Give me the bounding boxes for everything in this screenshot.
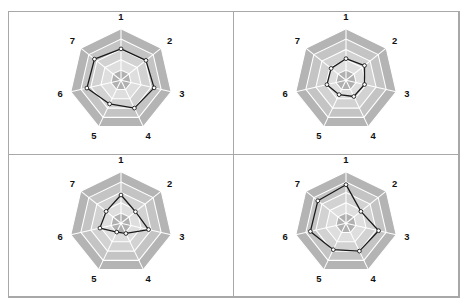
axis-label-4: 4 [370, 272, 376, 283]
axis-label-7: 7 [295, 177, 300, 188]
axis-label-2: 2 [392, 35, 397, 46]
axis-label-1: 1 [118, 12, 123, 22]
axis-label-7: 7 [70, 177, 75, 188]
radar-plot-top-right: 1234567 [234, 12, 458, 154]
axis-label-7: 7 [70, 35, 75, 46]
axis-label-1: 1 [118, 155, 123, 165]
radar-data-point-1 [344, 57, 348, 61]
radar-data-point-5 [108, 102, 112, 106]
radar-data-point-6 [325, 83, 329, 87]
radar-data-point-5 [331, 247, 335, 251]
axis-label-5: 5 [91, 272, 96, 283]
radar-data-point-3 [363, 83, 367, 87]
axis-label-3: 3 [179, 88, 184, 99]
radar-data-point-5 [115, 230, 119, 234]
radar-data-point-2 [363, 64, 367, 68]
axis-label-1: 1 [343, 155, 348, 165]
axis-label-2: 2 [167, 177, 172, 188]
radar-data-point-1 [119, 47, 123, 51]
radar-data-point-2 [144, 59, 148, 63]
axis-label-4: 4 [145, 130, 151, 141]
axis-label-3: 3 [179, 230, 184, 241]
radar-data-point-7 [329, 67, 333, 71]
axis-label-7: 7 [295, 35, 300, 46]
radar-data-point-7 [93, 57, 97, 61]
radar-data-point-6 [98, 226, 102, 230]
radar-data-point-4 [358, 249, 362, 253]
radar-panel-bottom-left: 1234567 [8, 154, 234, 298]
axis-label-1: 1 [343, 12, 348, 22]
axis-label-4: 4 [370, 130, 376, 141]
radar-data-point-7 [104, 209, 108, 213]
radar-panel-top-right: 1234567 [233, 11, 459, 155]
radar-data-point-6 [85, 86, 89, 90]
axis-label-2: 2 [392, 177, 397, 188]
radar-plot-bottom-right: 1234567 [234, 155, 458, 297]
radar-plot-top-left: 1234567 [9, 12, 233, 154]
radar-data-point-4 [352, 95, 356, 99]
radar-data-point-3 [147, 227, 151, 231]
axis-label-5: 5 [91, 130, 96, 141]
axis-label-5: 5 [316, 272, 321, 283]
radar-data-point-2 [134, 209, 138, 213]
axis-label-6: 6 [58, 88, 63, 99]
radar-panel-top-left: 1234567 [8, 11, 234, 155]
radar-data-point-7 [316, 198, 320, 202]
radar-data-point-1 [119, 193, 123, 197]
axis-label-3: 3 [404, 230, 409, 241]
radar-data-point-1 [344, 182, 348, 186]
radar-data-point-6 [309, 229, 313, 233]
radar-data-point-3 [377, 228, 381, 232]
radar-data-point-4 [124, 231, 128, 235]
axis-label-4: 4 [145, 272, 151, 283]
axis-label-3: 3 [404, 88, 409, 99]
radar-panel-bottom-right: 1234567 [233, 154, 459, 298]
radar-data-point-5 [337, 93, 341, 97]
axis-label-5: 5 [316, 130, 321, 141]
panel-grid: 1234567 1234567 1234567 1234567 [8, 11, 460, 298]
radar-data-point-3 [152, 86, 156, 90]
axis-label-6: 6 [58, 230, 63, 241]
radar-data-point-4 [133, 106, 137, 110]
radar-plot-bottom-left: 1234567 [9, 155, 233, 297]
axis-label-6: 6 [283, 230, 288, 241]
axis-label-6: 6 [283, 88, 288, 99]
axis-label-2: 2 [167, 35, 172, 46]
radar-data-point-2 [359, 209, 363, 213]
radar-chart-figure: · ·· ·· 1234567 1234567 1234567 1234567 [0, 0, 469, 306]
